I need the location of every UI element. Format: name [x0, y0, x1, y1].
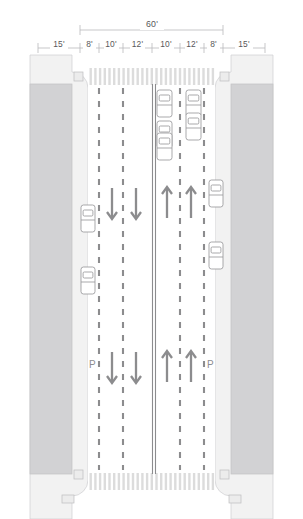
car-parked-right-b: [209, 242, 223, 269]
dimension-segments: 15' 8' 10' 12' 10' 12' 8' 15': [38, 38, 265, 53]
car-queued-a: [157, 90, 172, 117]
segment-label-parking-right: 8': [210, 39, 217, 49]
parking-label-left: P: [89, 359, 96, 370]
dimension-overall: 60': [80, 18, 223, 35]
corner-detail-box-bottom-right: [229, 495, 241, 503]
building-block-left: [30, 84, 72, 474]
curb-ramp-box-bottom-left: [74, 470, 83, 479]
curb-ramp-box-top-right: [220, 72, 229, 81]
street-cross-section-diagram: P P: [0, 0, 303, 519]
segment-label-parking-left: 8': [86, 39, 93, 49]
segment-label-lane-3: 10': [160, 39, 172, 49]
car-queued-c: [157, 133, 172, 160]
car-queued-e: [186, 113, 201, 140]
building-block-right: [231, 84, 273, 474]
curb-ramp-box-top-left: [74, 72, 83, 81]
corner-detail-box-bottom-left: [62, 495, 74, 503]
car-parked-left-b: [81, 267, 95, 294]
overall-dimension-label: 60': [146, 19, 158, 29]
segment-label-sidewalk-left: 15': [53, 39, 65, 49]
curb-ramp-box-bottom-right: [220, 470, 229, 479]
diagram-canvas: P P: [0, 0, 303, 519]
segment-label-lane-2: 12': [132, 39, 144, 49]
car-parked-left-a: [81, 205, 95, 232]
segment-label-sidewalk-right: 15': [238, 39, 250, 49]
segment-label-lane-1: 10': [105, 39, 117, 49]
segment-label-lane-4: 12': [186, 39, 198, 49]
parking-label-right: P: [207, 359, 214, 370]
car-parked-right-a: [209, 180, 223, 207]
